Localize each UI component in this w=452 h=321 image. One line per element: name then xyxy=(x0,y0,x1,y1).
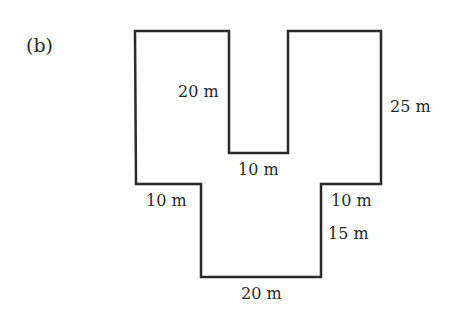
dimension-bottom-width: 20 m xyxy=(241,284,282,303)
dimension-notch-width: 10 m xyxy=(238,160,279,179)
dimension-left-step: 10 m xyxy=(146,191,187,210)
composite-shape-outline xyxy=(0,0,452,321)
dimension-right-step: 10 m xyxy=(331,191,372,210)
dimension-right-height: 25 m xyxy=(390,97,431,116)
dimension-lower-height: 15 m xyxy=(328,224,369,243)
dimension-notch-depth: 20 m xyxy=(178,82,219,101)
